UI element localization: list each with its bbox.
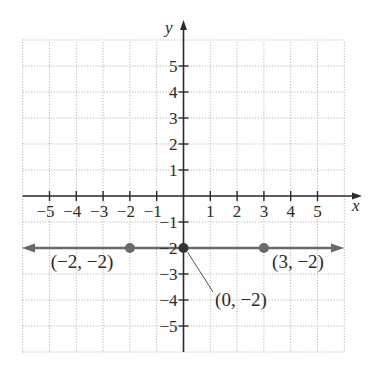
- coordinate-plane: xy−5−4−3−2−11234554321−1−2−3−4−5(−2, −2)…: [0, 0, 388, 377]
- y-tick-label: 3: [169, 109, 178, 128]
- y-axis-arrow-icon: [180, 20, 187, 30]
- y-tick-label: −4: [159, 291, 178, 310]
- y-tick-label: −5: [159, 317, 177, 336]
- y-tick-label: −3: [159, 265, 177, 284]
- x-tick-label: −2: [117, 202, 135, 221]
- point-label: (−2, −2): [51, 251, 114, 273]
- x-tick-label: −4: [63, 202, 82, 221]
- right-arrow-icon: [331, 244, 344, 253]
- data-point: [179, 243, 189, 253]
- y-axis-label: y: [163, 18, 173, 37]
- y-tick-label: 1: [169, 161, 178, 180]
- y-tick-label: 2: [169, 135, 178, 154]
- x-tick-label: −3: [90, 202, 108, 221]
- data-point: [125, 243, 135, 253]
- data-point: [259, 243, 269, 253]
- point-label: (0, −2): [215, 289, 267, 311]
- y-tick-label: 4: [169, 83, 178, 102]
- left-arrow-icon: [22, 244, 35, 253]
- x-tick-label: 3: [260, 202, 269, 221]
- x-tick-label: 5: [313, 202, 322, 221]
- leader-line: [188, 252, 214, 292]
- y-tick-label: −2: [159, 239, 177, 258]
- x-axis-label: x: [351, 196, 360, 215]
- axes: [23, 20, 362, 352]
- x-tick-label: 1: [206, 202, 215, 221]
- x-tick-label: −5: [36, 202, 54, 221]
- y-tick-label: 5: [169, 57, 178, 76]
- point-label: (3, −2): [272, 251, 324, 273]
- y-tick-label: −1: [159, 213, 177, 232]
- x-tick-label: 2: [233, 202, 242, 221]
- x-tick-label: 4: [286, 202, 295, 221]
